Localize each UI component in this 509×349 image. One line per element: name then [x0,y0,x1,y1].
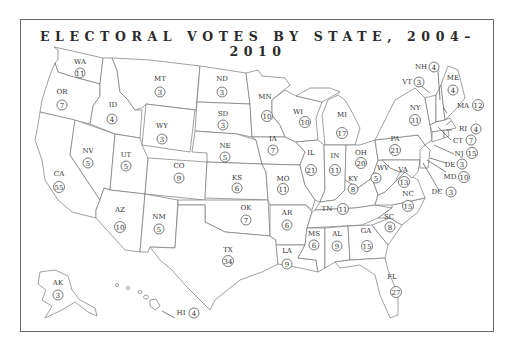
svg-text:OR: OR [56,88,68,96]
label-ri: RI4 [459,124,481,134]
svg-text:10: 10 [460,174,469,182]
svg-text:7: 7 [469,137,473,145]
label-ct: CT7 [453,135,476,145]
svg-text:AL: AL [331,230,342,238]
svg-text:MD: MD [444,173,457,181]
svg-text:10: 10 [116,224,125,232]
svg-text:RI: RI [459,125,467,133]
svg-text:9: 9 [177,175,181,183]
svg-text:MT: MT [154,75,166,83]
state-nm [140,194,178,252]
svg-text:KY: KY [348,175,358,183]
svg-text:NC: NC [402,190,413,198]
label-nh: NH4 [415,62,439,72]
svg-text:VA: VA [397,166,409,174]
svg-text:7: 7 [60,102,64,110]
svg-text:3: 3 [449,189,453,197]
state-nj [420,145,430,168]
svg-text:9: 9 [285,261,289,269]
svg-text:5: 5 [86,160,90,168]
svg-text:CA: CA [54,170,65,178]
svg-text:3: 3 [221,122,225,130]
svg-text:TN: TN [322,205,333,213]
svg-text:ND: ND [216,75,228,83]
state-wy [142,104,195,152]
svg-text:3: 3 [460,161,464,169]
svg-text:IA: IA [269,135,278,143]
svg-text:SD: SD [218,110,229,118]
label-ma: MA12 [457,100,484,111]
state-hi [116,284,161,311]
svg-text:55: 55 [55,184,64,192]
svg-text:21: 21 [307,167,316,175]
state-ak [38,270,97,318]
svg-text:3: 3 [417,79,421,87]
svg-text:11: 11 [339,206,348,214]
svg-text:UT: UT [121,151,132,159]
svg-text:GA: GA [361,227,373,235]
label-hi: HI4 [177,308,199,318]
svg-text:10: 10 [301,119,310,127]
svg-text:ID: ID [109,101,118,109]
svg-text:NY: NY [410,104,421,112]
label-nj: NJ15 [455,148,478,159]
svg-text:6: 6 [285,222,290,230]
svg-text:4: 4 [192,310,197,318]
svg-text:27: 27 [392,289,401,297]
svg-text:21: 21 [391,147,400,155]
label-de: DE3 [445,159,467,169]
svg-text:NV: NV [82,147,94,155]
us-map: WA11 OR7 CA55 ID4 NV5 MT3 WY3 UT5 AZ10 C… [0,0,509,349]
svg-text:LA: LA [282,247,293,255]
svg-text:CO: CO [173,162,184,170]
svg-text:7: 7 [244,217,248,225]
svg-text:IN: IN [331,152,340,160]
svg-text:4: 4 [432,64,437,72]
svg-text:3: 3 [160,136,164,144]
svg-text:SC: SC [384,213,394,221]
svg-text:AZ: AZ [114,206,125,214]
svg-text:6: 6 [312,242,317,250]
label-md: MD10 [444,172,470,183]
svg-text:11: 11 [331,167,340,175]
svg-text:12: 12 [474,102,483,110]
svg-text:10: 10 [263,113,272,121]
svg-text:ME: ME [447,74,459,82]
svg-text:WY: WY [156,122,168,130]
svg-text:WI: WI [293,108,303,116]
svg-text:DC: DC [432,188,443,196]
svg-text:MN: MN [258,93,271,101]
svg-text:7: 7 [271,147,275,155]
svg-text:9: 9 [335,243,339,251]
state-ny [375,88,432,145]
label-vt: VT3 [401,77,424,87]
svg-text:17: 17 [338,130,347,138]
svg-text:6: 6 [235,185,240,193]
state-fl [335,258,398,318]
svg-text:11: 11 [279,186,288,194]
svg-text:4: 4 [451,87,456,95]
state-nd [197,66,250,104]
svg-text:11: 11 [76,70,85,78]
svg-text:5: 5 [124,163,128,171]
svg-text:IL: IL [307,149,315,157]
svg-text:31: 31 [411,117,420,125]
svg-text:TX: TX [223,246,233,254]
svg-text:WV: WV [377,164,390,172]
svg-text:CT: CT [453,137,463,145]
svg-text:13: 13 [400,179,409,187]
svg-text:34: 34 [224,258,233,266]
svg-text:KS: KS [232,174,242,182]
svg-text:NE: NE [219,142,230,150]
svg-text:5: 5 [157,226,161,234]
svg-text:3: 3 [220,89,224,97]
svg-text:15: 15 [363,243,372,251]
svg-text:AK: AK [52,279,64,287]
svg-text:8: 8 [388,224,392,232]
svg-text:VT: VT [401,78,412,86]
svg-text:NJ: NJ [455,150,464,158]
svg-text:HI: HI [177,309,186,317]
svg-text:DE: DE [445,161,456,169]
svg-text:OH: OH [355,149,367,157]
svg-text:PA: PA [390,135,400,143]
